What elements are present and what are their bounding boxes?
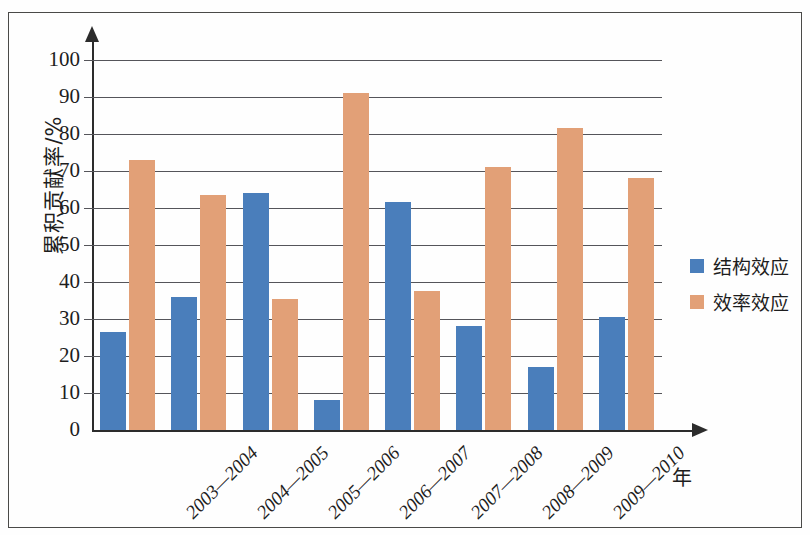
bar-efficiency [414,291,440,430]
bar-efficiency [129,160,155,430]
bar-efficiency [485,167,511,430]
y-axis-tick-label: 10 [36,382,80,403]
legend-item: 结构效应 [690,252,789,279]
gridline [92,60,662,61]
bar-structural [243,193,269,430]
y-axis-tick-label: 0 [36,419,80,440]
bar-structural [171,297,197,430]
bar-structural [456,326,482,430]
bar-efficiency [557,128,583,430]
legend-swatch-icon [690,295,704,309]
bar-efficiency [343,93,369,430]
y-axis-tick-mark [84,97,93,98]
y-axis-tick-mark [84,245,93,246]
y-axis-tick-mark [84,319,93,320]
bar-structural [314,400,340,430]
chart-figure: 0102030405060708090100 累积贡献率/% 2003—2004… [0,0,810,535]
y-axis-arrow-icon [85,26,99,42]
bar-structural [385,202,411,430]
x-axis-line [92,430,694,432]
bar-structural [528,367,554,430]
chart-legend: 结构效应效率效应 [690,252,789,315]
legend-swatch-icon [690,259,704,273]
gridline [92,97,662,98]
y-axis-tick-label: 30 [36,308,80,329]
y-axis-title: 累积贡献率/% [37,95,67,275]
y-axis-tick-mark [84,60,93,61]
y-axis-tick-mark [84,393,93,394]
bar-structural [100,332,126,430]
x-axis-arrow-icon [692,423,708,437]
bar-efficiency [200,195,226,430]
y-axis-tick-mark [84,282,93,283]
x-axis-title: 年 [672,462,692,491]
y-axis-tick-label: 100 [36,49,80,70]
y-axis-tick-mark [84,356,93,357]
y-axis-tick-mark [84,134,93,135]
legend-label: 效率效应 [713,288,789,315]
y-axis-tick-mark [84,171,93,172]
plot-area [92,60,662,430]
legend-item: 效率效应 [690,288,789,315]
bar-efficiency [272,299,298,430]
y-axis-tick-mark [84,208,93,209]
bar-structural [599,317,625,430]
y-axis-tick-label: 20 [36,345,80,366]
bar-efficiency [628,178,654,430]
legend-label: 结构效应 [713,252,789,279]
